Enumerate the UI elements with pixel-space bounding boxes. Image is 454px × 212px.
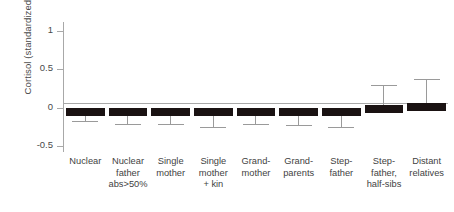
- y-tick-1: 0.5: [57, 69, 63, 70]
- y-tick-label: -0.5: [37, 139, 53, 150]
- bar: [109, 108, 148, 116]
- y-tick-3: -0.5: [57, 146, 63, 147]
- bar-group: [235, 22, 278, 152]
- error-bar-cap: [115, 124, 141, 125]
- error-bar-stem: [383, 85, 384, 106]
- bar: [407, 103, 446, 111]
- cortisol-bar-chart: Cortisol (standardized) 10.50-0.5 Nuclea…: [0, 0, 454, 212]
- x-axis-label-line: relatives: [401, 168, 452, 180]
- bar-group: [405, 22, 448, 152]
- y-tick-0: 1: [57, 31, 63, 32]
- bar: [279, 108, 318, 116]
- bar-group: [320, 22, 363, 152]
- bar-group: [149, 22, 192, 152]
- bar-group: [192, 22, 235, 152]
- bar-group: [277, 22, 320, 152]
- y-axis-title: Cortisol (standardized): [22, 0, 33, 116]
- error-bar-cap: [158, 124, 184, 125]
- x-axis-label-line: abs>50%: [103, 179, 154, 191]
- x-axis-labels: NuclearNuclearfatherabs>50%SinglemotherS…: [64, 156, 448, 212]
- y-tick-label: 0.5: [40, 62, 53, 73]
- x-axis-label-line: + kin: [188, 179, 239, 191]
- error-bar-stem: [426, 79, 427, 103]
- bars-layer: [64, 22, 448, 152]
- bar-group: [363, 22, 406, 152]
- bar: [365, 105, 404, 113]
- y-tick-label: 1: [48, 24, 53, 35]
- plot-area: 10.50-0.5: [63, 22, 448, 152]
- y-tick-2: 0: [57, 108, 63, 109]
- error-bar-cap: [371, 85, 397, 86]
- y-tick-label: 0: [48, 101, 53, 112]
- error-bar-stem: [298, 116, 299, 126]
- bar: [237, 108, 276, 116]
- x-axis-label-line: Distant: [401, 156, 452, 168]
- error-bar-cap: [243, 124, 269, 125]
- x-axis-label: Distantrelatives: [401, 156, 452, 179]
- error-bar-stem: [213, 116, 214, 127]
- bar: [194, 108, 233, 116]
- error-bar-cap: [286, 125, 312, 126]
- error-bar-stem: [341, 116, 342, 127]
- bar-group: [107, 22, 150, 152]
- error-bar-cap: [414, 79, 440, 80]
- bar: [66, 108, 105, 116]
- bar: [151, 108, 190, 116]
- error-bar-cap: [200, 127, 226, 128]
- error-bar-stem: [170, 116, 171, 125]
- bar-group: [64, 22, 107, 152]
- error-bar-cap: [72, 121, 98, 122]
- error-bar-cap: [328, 127, 354, 128]
- x-axis-label-line: half-sibs: [359, 179, 410, 191]
- error-bar-stem: [255, 116, 256, 124]
- bar: [322, 108, 361, 116]
- error-bar-stem: [127, 116, 128, 125]
